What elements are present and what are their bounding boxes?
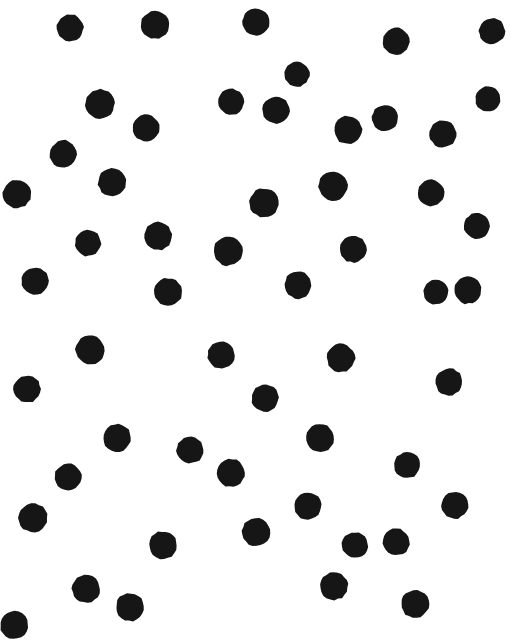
dot bbox=[394, 452, 420, 478]
dot bbox=[372, 105, 398, 131]
dot-layer bbox=[0, 0, 515, 643]
canvas-background bbox=[0, 0, 515, 643]
dot bbox=[149, 532, 176, 560]
dot-pattern-canvas bbox=[0, 0, 515, 643]
